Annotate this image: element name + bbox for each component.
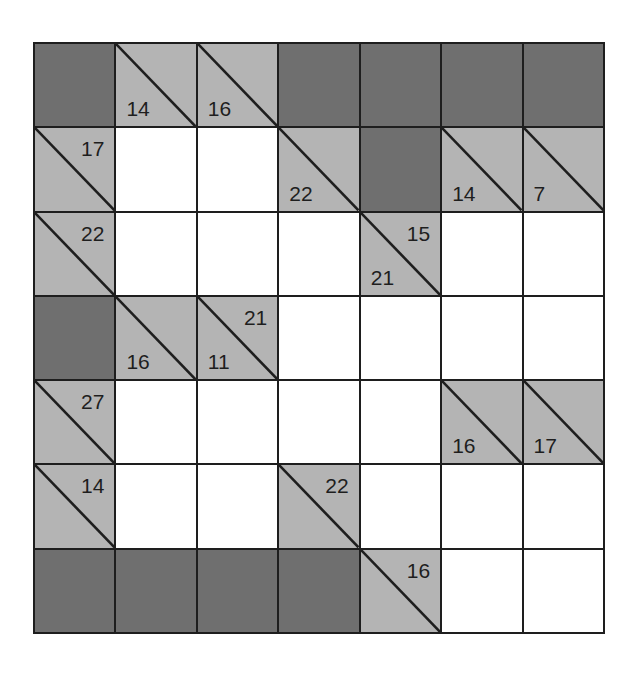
entry-cell[interactable] — [279, 213, 358, 295]
block-cell — [35, 44, 114, 126]
entry-cell[interactable] — [442, 297, 521, 379]
block-cell — [116, 550, 195, 632]
entry-cell[interactable] — [361, 381, 440, 463]
clue-cell: 27 — [35, 381, 114, 463]
clue-cell: 22 — [279, 128, 358, 210]
block-cell — [361, 44, 440, 126]
clue-cell: 22 — [279, 465, 358, 547]
down-clue-sum: 7 — [534, 183, 546, 204]
across-clue-sum: 15 — [407, 223, 430, 244]
clue-cell: 2115 — [361, 213, 440, 295]
down-clue-sum: 16 — [208, 98, 231, 119]
entry-cell[interactable] — [198, 213, 277, 295]
entry-cell[interactable] — [524, 465, 603, 547]
entry-cell[interactable] — [524, 297, 603, 379]
entry-cell[interactable] — [361, 465, 440, 547]
clue-cell: 17 — [524, 381, 603, 463]
clue-cell: 22 — [35, 213, 114, 295]
entry-cell[interactable] — [442, 550, 521, 632]
entry-cell[interactable] — [116, 128, 195, 210]
across-clue-sum: 22 — [81, 223, 104, 244]
clue-cell: 17 — [35, 128, 114, 210]
block-cell — [35, 297, 114, 379]
kakuro-grid: 14161722147222115161121271617142216 — [33, 42, 605, 634]
entry-cell[interactable] — [524, 213, 603, 295]
entry-cell[interactable] — [361, 297, 440, 379]
clue-cell: 14 — [116, 44, 195, 126]
block-cell — [279, 44, 358, 126]
clue-cell: 16 — [198, 44, 277, 126]
entry-cell[interactable] — [524, 550, 603, 632]
down-clue-sum: 16 — [126, 351, 149, 372]
block-cell — [198, 550, 277, 632]
block-cell — [442, 44, 521, 126]
across-clue-sum: 22 — [325, 475, 348, 496]
clue-cell: 16 — [442, 381, 521, 463]
across-clue-sum: 21 — [244, 307, 267, 328]
down-clue-sum: 11 — [208, 351, 230, 372]
entry-cell[interactable] — [116, 465, 195, 547]
entry-cell[interactable] — [442, 213, 521, 295]
across-clue-sum: 27 — [81, 391, 104, 412]
entry-cell[interactable] — [116, 381, 195, 463]
entry-cell[interactable] — [198, 381, 277, 463]
block-cell — [361, 128, 440, 210]
down-clue-sum: 22 — [289, 183, 312, 204]
down-clue-sum: 14 — [126, 98, 149, 119]
clue-cell: 14 — [35, 465, 114, 547]
clue-cell: 7 — [524, 128, 603, 210]
clue-cell: 1121 — [198, 297, 277, 379]
entry-cell[interactable] — [442, 465, 521, 547]
block-cell — [524, 44, 603, 126]
down-clue-sum: 21 — [371, 267, 394, 288]
across-clue-sum: 14 — [81, 475, 104, 496]
across-clue-sum: 17 — [81, 138, 104, 159]
across-clue-sum: 16 — [407, 560, 430, 581]
clue-cell: 14 — [442, 128, 521, 210]
entry-cell[interactable] — [198, 128, 277, 210]
clue-cell: 16 — [361, 550, 440, 632]
down-clue-sum: 14 — [452, 183, 475, 204]
down-clue-sum: 17 — [534, 435, 557, 456]
clue-cell: 16 — [116, 297, 195, 379]
entry-cell[interactable] — [198, 465, 277, 547]
entry-cell[interactable] — [279, 297, 358, 379]
block-cell — [279, 550, 358, 632]
block-cell — [35, 550, 114, 632]
entry-cell[interactable] — [116, 213, 195, 295]
down-clue-sum: 16 — [452, 435, 475, 456]
entry-cell[interactable] — [279, 381, 358, 463]
